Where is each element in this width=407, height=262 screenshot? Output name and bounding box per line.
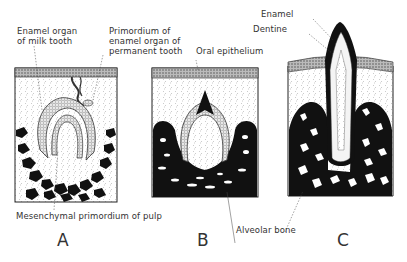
label-enamel-organ-milk-tooth: Enamel organ of milk tooth (17, 26, 77, 46)
label-line: permanent tooth (109, 46, 182, 56)
panel-letter-a: A (57, 230, 69, 250)
panel-c (285, 19, 393, 232)
label-line: enamel organ of (109, 36, 182, 46)
label-oral-epithelium: Oral epithelium (196, 46, 263, 56)
label-mesenchymal-pulp: Mesenchymal primordium of pulp (16, 211, 162, 221)
oral-epithelium-b (152, 68, 258, 78)
label-enamel: Enamel (261, 9, 293, 19)
label-line: Primordium of (109, 26, 182, 36)
panel-letter-c: C (337, 230, 349, 250)
pulp-c (336, 50, 346, 150)
label-line: of milk tooth (17, 36, 77, 46)
oral-epithelium-a (15, 68, 117, 77)
label-primordium-permanent-tooth: Primordium of enamel organ of permanent … (109, 26, 182, 56)
panel-b (152, 60, 258, 243)
permanent-tooth-primordium (83, 100, 93, 106)
label-line: Enamel organ (17, 26, 77, 36)
label-dentine: Dentine (253, 24, 287, 34)
panel-a (15, 46, 117, 210)
panel-letter-b: B (197, 230, 209, 250)
label-alveolar-bone: Alveolar bone (236, 225, 296, 235)
